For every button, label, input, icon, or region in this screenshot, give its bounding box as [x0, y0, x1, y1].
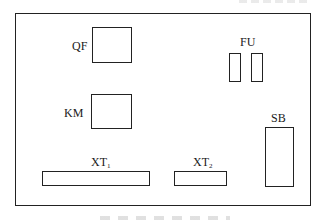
xt2-label-subscript: 2 — [209, 162, 213, 170]
xt2-terminal-block — [174, 171, 227, 186]
km-contactor-box — [91, 94, 132, 129]
fu-fuse-box-1 — [229, 53, 241, 82]
cropped-caption-text — [100, 216, 230, 220]
sb-label: SB — [271, 112, 286, 124]
xt1-terminal-block — [42, 171, 150, 186]
fu-fuse-box-2 — [251, 53, 263, 82]
qf-label: QF — [72, 40, 87, 52]
km-label: KM — [64, 107, 83, 119]
fu-label: FU — [240, 36, 255, 48]
xt1-label-subscript: 1 — [107, 162, 111, 170]
xt1-label: XT1 — [91, 156, 111, 172]
xt1-label-text: XT — [91, 155, 107, 169]
sb-button-box — [265, 127, 294, 187]
cropped-header-text — [239, 0, 309, 3]
qf-breaker-box — [92, 27, 132, 63]
xt2-label: XT2 — [193, 156, 213, 172]
xt2-label-text: XT — [193, 155, 209, 169]
